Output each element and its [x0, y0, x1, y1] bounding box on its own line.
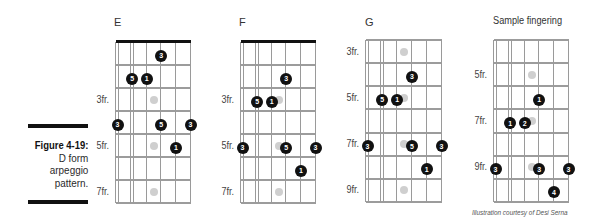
dot-label: 1 — [174, 144, 178, 151]
caption-top-rule — [28, 124, 88, 128]
fret-line — [116, 179, 191, 181]
fretboard-diagram-e: 3fr.5fr.7fr.3513531 — [117, 42, 190, 203]
string-line — [146, 42, 147, 203]
fret-number-label: 3fr. — [221, 94, 234, 106]
diagram-title-g: G — [365, 16, 374, 28]
finger-dot: 3 — [490, 163, 502, 175]
diagram-title-sample-fingering: Sample fingering — [493, 15, 562, 26]
dot-label: 3 — [159, 52, 163, 59]
fretboard-diagram-f: 3fr.5fr.7fr.3513531 — [242, 42, 315, 203]
finger-dot: 3 — [362, 140, 374, 152]
fret-line — [241, 156, 316, 158]
dot-label: 1 — [270, 98, 274, 105]
finger-dot: 3 — [237, 142, 249, 154]
caption-line: D form — [32, 152, 88, 165]
figure-number: Figure 4-19: — [34, 139, 88, 152]
string-line — [538, 40, 539, 202]
finger-dot: 3 — [533, 163, 545, 175]
dot-label: 3 — [241, 144, 245, 151]
fret-line — [116, 110, 191, 112]
dot-label: 3 — [116, 121, 120, 128]
fret-line — [494, 62, 569, 64]
finger-dot: 1 — [533, 94, 545, 106]
fret-line — [366, 39, 442, 41]
fret-line — [366, 85, 442, 87]
dot-label: 3 — [567, 166, 571, 173]
fret-line — [116, 202, 191, 204]
dot-label: 3 — [366, 143, 370, 150]
illustration-credit: Illustration courtesy of Desi Serna — [472, 208, 568, 217]
nut — [116, 40, 191, 43]
string-line — [285, 42, 286, 203]
string-line — [411, 40, 412, 202]
fret-line — [366, 108, 442, 110]
fret-line — [116, 133, 191, 135]
fret-line — [494, 39, 569, 41]
fret-number-label: 5fr. — [346, 92, 359, 104]
caption-line: arpeggio — [32, 164, 88, 177]
finger-dot: 4 — [548, 186, 560, 198]
fret-line — [241, 110, 316, 112]
fret-line — [241, 64, 316, 66]
fret-number-label: 7fr. — [96, 186, 109, 198]
fret-line — [494, 178, 569, 180]
nut — [241, 40, 316, 43]
finger-dot: 1 — [170, 142, 182, 154]
fret-line — [494, 132, 569, 134]
string-line — [240, 42, 244, 203]
string-line — [553, 40, 554, 202]
finger-dot: 1 — [295, 165, 307, 177]
fret-number-label: 5fr. — [474, 69, 487, 81]
fret-number-label: 3fr. — [346, 46, 359, 58]
finger-dot: 1 — [141, 73, 153, 85]
dot-label: 2 — [523, 120, 527, 127]
string-line — [493, 40, 497, 202]
dot-label: 1 — [145, 75, 149, 82]
dot-label: 3 — [410, 73, 414, 80]
dot-label: 3 — [494, 166, 498, 173]
fretboard-diagram-g: 3fr.5fr.7fr.9fr.3513531 — [367, 40, 441, 202]
fret-line — [241, 179, 316, 181]
finger-dot: 5 — [251, 96, 263, 108]
dot-label: 3 — [537, 166, 541, 173]
fret-number-label: 3fr. — [96, 94, 109, 106]
string-line — [255, 42, 259, 203]
fret-line — [241, 87, 316, 89]
dot-label: 5 — [380, 96, 384, 103]
string-line — [396, 40, 397, 202]
fret-number-label: 7fr. — [346, 138, 359, 150]
fret-line — [366, 132, 442, 134]
dot-label: 1 — [537, 96, 541, 103]
dot-label: 1 — [425, 166, 429, 173]
fret-number-label: 5fr. — [221, 140, 234, 152]
finger-dot: 2 — [519, 117, 531, 129]
fret-line — [366, 155, 442, 157]
figure-caption: Figure 4-19: D form arpeggio pattern. — [26, 139, 88, 189]
string-line — [568, 40, 569, 202]
finger-dot: 1 — [266, 96, 278, 108]
finger-dot: 3 — [563, 163, 575, 175]
fret-line — [241, 202, 316, 204]
dot-label: 5 — [159, 121, 163, 128]
fret-marker-dot — [150, 188, 158, 196]
finger-dot: 3 — [155, 50, 167, 62]
fret-marker-dot — [400, 186, 408, 194]
finger-dot: 5 — [280, 142, 292, 154]
dot-label: 5 — [410, 143, 414, 150]
dot-label: 5 — [255, 98, 259, 105]
dot-label: 3 — [284, 75, 288, 82]
fret-number-label: 7fr. — [474, 115, 487, 127]
fret-marker-dot — [150, 96, 158, 104]
fret-number-label: 7fr. — [221, 186, 234, 198]
finger-dot: 3 — [280, 73, 292, 85]
fret-line — [366, 62, 442, 64]
finger-dot: 5 — [376, 94, 388, 106]
finger-dot: 3 — [310, 142, 322, 154]
fret-line — [116, 64, 191, 66]
fret-line — [116, 87, 191, 89]
diagram-title-e: E — [114, 16, 121, 28]
finger-dot: 5 — [126, 73, 138, 85]
fretboard-diagram-sample-fingering: 5fr.7fr.9fr.1123334 — [495, 40, 568, 202]
finger-dot: 3 — [406, 71, 418, 83]
finger-dot: 1 — [421, 163, 433, 175]
